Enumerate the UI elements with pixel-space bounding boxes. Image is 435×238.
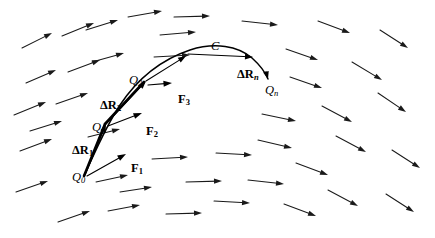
field-arrow-1-shaft bbox=[26, 72, 52, 83]
field-arrow-41-head bbox=[406, 205, 414, 212]
field-arrow-2-head bbox=[38, 102, 46, 107]
point-label-Q2: Q2 bbox=[129, 74, 142, 87]
field-arrow-3-shaft bbox=[20, 140, 48, 151]
field-arrow-11-shaft bbox=[30, 122, 58, 131]
field-arrow-39-shaft bbox=[378, 93, 403, 110]
field-arrow-19-shaft bbox=[174, 16, 206, 17]
field-arrow-9-head bbox=[110, 20, 118, 25]
field-arrow-22-shaft bbox=[166, 213, 198, 214]
field-arrow-21-head bbox=[214, 179, 222, 184]
field-arrow-40-shaft bbox=[392, 150, 416, 166]
point-label-Q0: Q0 bbox=[72, 171, 85, 184]
field-arrow-34-head bbox=[344, 116, 352, 122]
field-arrow-18-head bbox=[144, 186, 152, 191]
field-arrow-31-head bbox=[320, 170, 328, 175]
field-arrow-14-head bbox=[132, 204, 140, 209]
field-arrow-36-shaft bbox=[328, 190, 354, 204]
field-arrow-38-head bbox=[400, 41, 408, 48]
field-arrow-5-shaft bbox=[58, 212, 86, 222]
force-vector-F1-head bbox=[117, 154, 126, 161]
force-label-F3: F3 bbox=[178, 93, 190, 106]
field-arrow-24-head bbox=[242, 200, 250, 205]
field-arrow-41-shaft bbox=[386, 194, 410, 210]
field-arrow-16-head bbox=[188, 30, 196, 35]
field-arrow-22-head bbox=[194, 211, 202, 216]
field-arrow-13-head bbox=[120, 174, 128, 179]
field-arrow-20-head bbox=[180, 155, 188, 160]
field-arrow-29-shaft bbox=[286, 49, 314, 59]
vector-field-line-integral-figure: CQ0Q1Q2QnΔR1ΔR2ΔRnF1F2F3 bbox=[0, 0, 435, 238]
field-arrow-30-head bbox=[314, 83, 322, 88]
field-arrow-11-head bbox=[54, 121, 62, 126]
field-arrow-21-shaft bbox=[186, 181, 218, 182]
point-label-Q1: Q1 bbox=[92, 121, 105, 134]
force-vector-F3-head bbox=[163, 81, 172, 87]
field-arrow-7-shaft bbox=[68, 61, 96, 72]
field-arrow-35-head bbox=[358, 146, 366, 152]
force-label-F2: F2 bbox=[146, 125, 158, 138]
field-arrow-5-head bbox=[82, 211, 90, 216]
field-arrow-30-shaft bbox=[290, 77, 318, 87]
chord-arrow-Qn-shaft bbox=[188, 54, 249, 57]
field-arrow-25-shaft bbox=[248, 180, 280, 184]
force-vector-F2-head bbox=[133, 113, 142, 119]
field-arrow-24-shaft bbox=[214, 201, 246, 203]
field-arrow-28-shaft bbox=[258, 140, 288, 147]
field-arrow-19-head bbox=[202, 14, 210, 19]
field-arrow-0-shaft bbox=[22, 35, 48, 48]
field-arrow-31-shaft bbox=[296, 163, 324, 174]
curve-label-C: C bbox=[211, 40, 219, 53]
point-label-Qn: Qn bbox=[265, 84, 278, 97]
displacement-label-dR2: ΔR2 bbox=[100, 99, 121, 112]
field-arrow-13-shaft bbox=[96, 176, 124, 182]
field-arrow-20-shaft bbox=[152, 157, 184, 159]
field-arrow-2-shaft bbox=[14, 104, 42, 115]
field-arrow-39-head bbox=[398, 105, 406, 112]
field-arrow-4-shaft bbox=[16, 182, 44, 192]
field-arrow-37-shaft bbox=[352, 62, 378, 78]
field-arrow-33-shaft bbox=[318, 21, 346, 32]
figure-canvas bbox=[0, 0, 435, 238]
field-arrow-23-shaft bbox=[216, 153, 248, 155]
field-arrow-14-shaft bbox=[108, 206, 136, 211]
field-arrow-4-head bbox=[40, 181, 48, 186]
field-arrow-36-head bbox=[350, 200, 358, 206]
field-arrow-32-head bbox=[308, 211, 316, 216]
field-arrow-32-shaft bbox=[284, 204, 312, 215]
field-arrow-40-head bbox=[412, 161, 420, 168]
field-arrow-8-head bbox=[80, 93, 88, 98]
field-arrow-27-shaft bbox=[262, 114, 292, 120]
displacement-label-dRn: ΔRn bbox=[237, 68, 259, 81]
field-arrow-33-head bbox=[342, 28, 350, 33]
field-arrow-25-head bbox=[276, 181, 284, 186]
field-arrow-26-head bbox=[270, 22, 278, 27]
field-arrow-29-head bbox=[310, 55, 318, 60]
field-arrow-12-head bbox=[112, 128, 120, 133]
field-arrow-35-shaft bbox=[336, 136, 362, 150]
field-arrow-27-head bbox=[288, 117, 296, 122]
field-arrow-37-head bbox=[374, 74, 382, 80]
field-arrow-8-shaft bbox=[56, 94, 84, 104]
field-arrow-10-shaft bbox=[92, 54, 120, 62]
field-arrow-16-shaft bbox=[160, 32, 192, 35]
field-arrow-23-head bbox=[244, 152, 252, 157]
field-arrow-10-head bbox=[116, 53, 124, 58]
field-arrow-1-head bbox=[48, 70, 56, 76]
field-arrow-28-head bbox=[284, 144, 292, 149]
field-arrow-26-shaft bbox=[242, 21, 274, 25]
field-arrow-15-shaft bbox=[128, 12, 158, 17]
field-arrow-15-head bbox=[154, 10, 162, 15]
field-arrow-38-shaft bbox=[380, 30, 404, 46]
field-arrow-3-head bbox=[44, 139, 52, 144]
field-arrow-18-shaft bbox=[120, 188, 148, 192]
field-arrow-17-shaft bbox=[154, 55, 186, 57]
force-label-F1: F1 bbox=[131, 162, 143, 175]
field-arrow-0-head bbox=[44, 33, 52, 39]
field-arrow-34-shaft bbox=[322, 106, 348, 120]
displacement-label-dR1: ΔR1 bbox=[72, 144, 93, 157]
chord-arrow-Q2-Q3-head bbox=[178, 56, 186, 63]
